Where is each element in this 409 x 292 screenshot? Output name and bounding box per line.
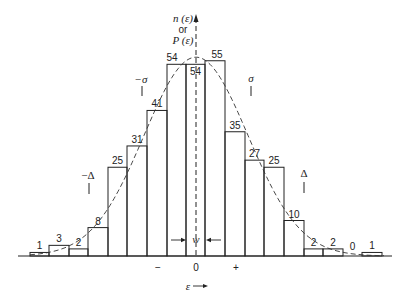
bar-value-label: 25 xyxy=(268,155,280,166)
x-axis-label: ε xyxy=(186,280,191,292)
histogram-chart: 1328253141545455352725102201 n (ε) or P … xyxy=(0,0,409,292)
bin-width-label: w xyxy=(192,233,200,245)
histogram-bar xyxy=(127,146,147,256)
y-axis-arrow-icon xyxy=(194,14,199,22)
histogram-bar xyxy=(264,167,284,256)
y-label-line3: P (ε) xyxy=(172,34,194,47)
sigma-label: σ xyxy=(248,72,254,84)
histogram-bar xyxy=(245,160,264,256)
histogram-bar xyxy=(304,249,323,256)
x-zero-label: 0 xyxy=(193,262,199,273)
gaussian-curve xyxy=(30,57,384,256)
histogram-bar xyxy=(49,245,69,256)
bar-value-label: 41 xyxy=(151,98,163,109)
width-arrow-right-icon xyxy=(206,238,211,242)
histogram-bar xyxy=(147,110,167,256)
histogram-bars xyxy=(30,61,382,256)
bar-value-label: 35 xyxy=(229,120,241,131)
histogram-bar xyxy=(205,61,225,256)
width-arrow-left-icon xyxy=(181,238,186,242)
bar-value-label: 31 xyxy=(131,134,143,145)
bar-value-label: 3 xyxy=(56,233,62,244)
bar-value-label: 27 xyxy=(249,148,261,159)
bar-value-label: 55 xyxy=(211,49,223,60)
x-minus-label: − xyxy=(155,262,161,273)
bar-value-label: 1 xyxy=(37,240,43,251)
delta-label: Δ xyxy=(300,167,307,179)
bar-value-label: 2 xyxy=(330,237,336,248)
histogram-bar xyxy=(284,221,304,257)
bar-value-label: 10 xyxy=(288,209,300,220)
histogram-bar xyxy=(69,249,88,256)
minus-sigma-label: −σ xyxy=(135,73,148,85)
histogram-bar xyxy=(108,167,127,256)
bar-value-label: 25 xyxy=(112,155,124,166)
bar-value-label: 1 xyxy=(369,240,375,251)
histogram-bar xyxy=(225,132,245,256)
bar-value-labels: 1328253141545455352725102201 xyxy=(37,49,376,252)
x-plus-label: + xyxy=(233,262,239,273)
histogram-bar xyxy=(167,64,186,256)
minus-delta-label: −Δ xyxy=(81,169,94,181)
bar-value-label: 54 xyxy=(166,52,178,63)
bar-value-label: 0 xyxy=(350,241,356,252)
histogram-bar xyxy=(88,228,108,256)
histogram-bar xyxy=(323,249,343,256)
x-axis-arrow-icon xyxy=(203,284,208,288)
bar-value-label: 2 xyxy=(76,237,82,248)
